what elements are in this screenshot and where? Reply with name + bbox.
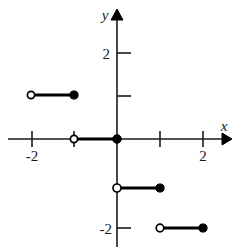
segment-3-closed-endpoint — [156, 184, 164, 192]
y-tick-label-neg2: -2 — [100, 221, 113, 237]
x-axis-arrowhead — [222, 133, 232, 145]
coordinate-plane: -2 2 2 -2 x y — [0, 0, 232, 247]
segment-2 — [70, 135, 121, 144]
segment-2-closed-endpoint — [113, 135, 122, 144]
x-tick-label-neg2: -2 — [26, 148, 39, 164]
graph-figure: -2 2 2 -2 x y — [0, 0, 232, 247]
segment-3 — [113, 184, 164, 192]
segment-4-open-endpoint — [156, 224, 164, 232]
segment-1 — [27, 91, 78, 99]
x-tick-label-2: 2 — [199, 148, 207, 164]
segment-1-closed-endpoint — [70, 91, 78, 99]
y-axis — [111, 9, 123, 247]
segment-1-open-endpoint — [27, 91, 34, 98]
x-axis-label: x — [220, 118, 228, 134]
segment-4 — [156, 224, 207, 232]
y-axis-arrowhead — [111, 9, 123, 20]
segment-4-closed-endpoint — [199, 224, 207, 232]
y-tick-label-2: 2 — [103, 46, 111, 62]
segment-2-open-endpoint — [70, 135, 77, 142]
segment-3-open-endpoint — [113, 184, 121, 192]
y-axis-label: y — [100, 7, 109, 23]
